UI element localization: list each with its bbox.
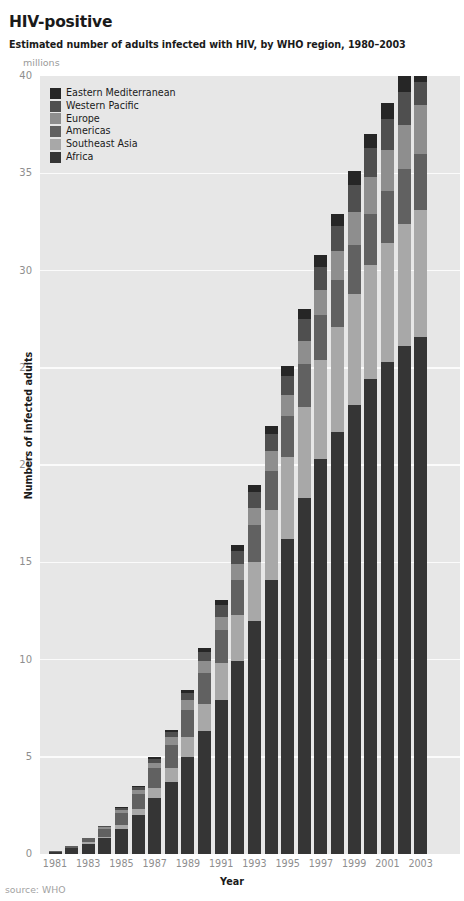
- bar-1993: [248, 485, 261, 855]
- bar-segment-africa: [398, 346, 411, 854]
- legend-item: Africa: [50, 151, 176, 164]
- plot-area: [40, 76, 460, 854]
- bar-segment-africa: [265, 580, 278, 854]
- bar-segment-eastern-mediterranean: [314, 255, 327, 267]
- bar-segment-western-pacific: [348, 185, 361, 212]
- bar-segment-eastern-mediterranean: [248, 485, 261, 493]
- bar-segment-americas: [414, 154, 427, 210]
- bar-segment-europe: [414, 105, 427, 154]
- legend-swatch-icon: [50, 101, 61, 112]
- bar-segment-southeast-asia: [364, 265, 377, 380]
- bar-segment-southeast-asia: [265, 510, 278, 580]
- bar-segment-americas: [165, 745, 178, 768]
- bar-segment-africa: [65, 848, 78, 854]
- legend-item-label: Eastern Mediterranean: [66, 87, 176, 100]
- bar-segment-europe: [348, 212, 361, 245]
- bar-segment-africa: [98, 838, 111, 854]
- x-axis-title: Year: [0, 876, 464, 887]
- bar-segment-africa: [49, 852, 62, 854]
- bar-segment-africa: [364, 379, 377, 854]
- bar-1998: [331, 214, 344, 854]
- bar-1983: [82, 838, 95, 855]
- bar-segment-americas: [348, 245, 361, 294]
- bar-2001: [381, 103, 394, 854]
- y-axis-units-label: millions: [23, 57, 60, 68]
- bar-segment-southeast-asia: [331, 327, 344, 432]
- bar-segment-western-pacific: [298, 319, 311, 340]
- legend-swatch-icon: [50, 126, 61, 137]
- bar-segment-southeast-asia: [414, 210, 427, 336]
- bar-segment-western-pacific: [364, 148, 377, 177]
- bar-segment-africa: [348, 405, 361, 854]
- bar-segment-southeast-asia: [381, 243, 394, 362]
- legend-item: Eastern Mediterranean: [50, 87, 176, 100]
- bar-segment-americas: [248, 525, 261, 562]
- bar-segment-americas: [364, 214, 377, 265]
- bar-segment-southeast-asia: [165, 768, 178, 782]
- bar-1997: [314, 255, 327, 854]
- legend-item-label: Africa: [66, 151, 93, 164]
- bar-segment-americas: [381, 191, 394, 244]
- bar-segment-southeast-asia: [198, 704, 211, 731]
- bar-segment-africa: [314, 459, 327, 854]
- bar-segment-eastern-mediterranean: [381, 103, 394, 119]
- bar-segment-europe: [281, 395, 294, 416]
- legend-swatch-icon: [50, 88, 61, 99]
- bar-segment-americas: [148, 768, 161, 787]
- bar-segment-eastern-mediterranean: [331, 214, 344, 226]
- bar-segment-africa: [414, 337, 427, 854]
- bar-segment-europe: [381, 150, 394, 191]
- bar-segment-eastern-mediterranean: [281, 366, 294, 376]
- bar-segment-africa: [331, 432, 344, 854]
- legend-item: Southeast Asia: [50, 138, 176, 151]
- bar-1982: [65, 846, 78, 854]
- bar-segment-europe: [198, 661, 211, 673]
- bar-segment-africa: [198, 731, 211, 854]
- bar-segment-americas: [265, 471, 278, 510]
- bar-segment-europe: [165, 737, 178, 745]
- bar-segment-eastern-mediterranean: [364, 134, 377, 148]
- legend-item: Western Pacific: [50, 100, 176, 113]
- bar-segment-americas: [132, 794, 145, 810]
- bar-1991: [215, 600, 228, 854]
- bar-1981: [49, 851, 62, 854]
- bar-1990: [198, 648, 211, 854]
- bar-series-container: [40, 76, 460, 854]
- bar-segment-africa: [148, 798, 161, 854]
- y-axis-tick-label: 10: [0, 654, 32, 665]
- bar-segment-western-pacific: [198, 652, 211, 662]
- bar-segment-americas: [215, 630, 228, 663]
- bar-segment-eastern-mediterranean: [298, 309, 311, 319]
- bar-segment-europe: [364, 177, 377, 214]
- bar-segment-southeast-asia: [231, 615, 244, 662]
- bar-segment-africa: [181, 757, 194, 854]
- legend-item-label: Western Pacific: [66, 100, 139, 113]
- bar-segment-western-pacific: [331, 226, 344, 251]
- y-axis-tick-label: 15: [0, 556, 32, 567]
- bar-1999: [348, 171, 361, 854]
- bar-segment-western-pacific: [414, 82, 427, 105]
- bar-segment-americas: [298, 364, 311, 407]
- chart-figure: HIV-positive Estimated number of adults …: [0, 0, 464, 901]
- bar-segment-western-pacific: [215, 605, 228, 617]
- x-axis-tick-label: 2003: [401, 858, 441, 869]
- page-title: HIV-positive: [9, 13, 112, 31]
- bar-segment-americas: [281, 416, 294, 457]
- bar-segment-southeast-asia: [348, 294, 361, 405]
- bar-segment-western-pacific: [248, 492, 261, 508]
- bar-segment-africa: [115, 829, 128, 854]
- bar-segment-eastern-mediterranean: [265, 426, 278, 434]
- bar-segment-americas: [181, 710, 194, 737]
- bar-segment-southeast-asia: [281, 457, 294, 539]
- bar-segment-southeast-asia: [148, 788, 161, 798]
- bar-segment-western-pacific: [398, 92, 411, 125]
- y-axis-tick-label: 40: [0, 70, 32, 81]
- bar-segment-europe: [181, 700, 194, 710]
- bar-segment-europe: [298, 341, 311, 364]
- bar-segment-americas: [115, 813, 128, 825]
- bar-2003: [414, 76, 427, 854]
- bar-segment-africa: [281, 539, 294, 854]
- legend-item-label: Americas: [66, 125, 111, 138]
- bar-segment-western-pacific: [231, 551, 244, 565]
- bar-segment-americas: [98, 829, 111, 837]
